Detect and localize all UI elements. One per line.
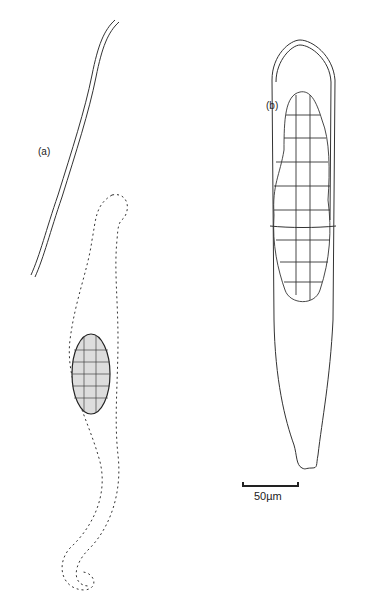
panel-label-a: (a)	[38, 146, 50, 157]
granular-mass	[72, 334, 110, 414]
cell-mass	[274, 92, 330, 302]
panel-label-b: (b)	[266, 100, 278, 111]
illustration	[0, 0, 378, 603]
figure: (a) (b) 50µm	[0, 0, 378, 603]
scale-bar-label: 50µm	[254, 490, 282, 502]
sac	[270, 40, 336, 469]
scale-bar	[243, 482, 298, 486]
